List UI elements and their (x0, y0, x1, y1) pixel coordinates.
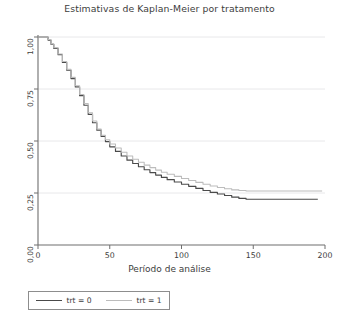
x-tick-label: 50 (105, 251, 115, 260)
y-tick-label: 0,75 (26, 88, 35, 110)
x-tick-label: 100 (174, 251, 189, 260)
legend-label-trt0: trt = 0 (66, 296, 91, 305)
y-tick-label: 0,00 (26, 244, 35, 266)
legend-line-swatch-trt1 (106, 300, 132, 301)
x-tick-label: 150 (246, 251, 261, 260)
x-axis-label: Período de análise (0, 264, 339, 274)
legend-label-trt1: trt = 1 (136, 296, 161, 305)
chart-legend: trt = 0 trt = 1 (28, 291, 170, 310)
legend-line-swatch-trt0 (36, 300, 62, 301)
legend-entry-trt0: trt = 0 (29, 296, 99, 305)
kaplan-meier-chart: Estimativas de Kaplan-Meier por tratamen… (0, 0, 339, 319)
survival-curve-trt-1 (38, 37, 322, 191)
y-tick-label: 0,50 (26, 140, 35, 162)
legend-entry-trt1: trt = 1 (99, 296, 169, 305)
y-tick-label: 0,25 (26, 192, 35, 214)
x-tick-label: 0 (36, 251, 41, 260)
y-tick-label: 1,00 (26, 36, 35, 58)
survival-curve-trt-0 (38, 37, 318, 199)
x-tick-label: 200 (318, 251, 333, 260)
